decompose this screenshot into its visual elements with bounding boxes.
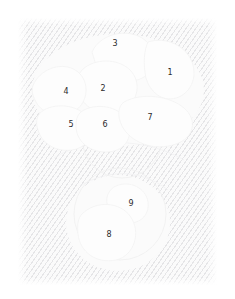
segment-label-7: 7 — [147, 114, 152, 122]
segment-label-8: 8 — [106, 231, 111, 239]
figure-canvas: 1 2 3 4 5 6 7 8 9 — [0, 0, 235, 299]
segment-label-1: 1 — [167, 69, 172, 77]
segment-label-9: 9 — [128, 200, 133, 208]
segment-label-5: 5 — [68, 121, 73, 129]
plot-area: 1 2 3 4 5 6 7 8 9 — [18, 18, 217, 285]
segments-layer — [18, 18, 217, 285]
segment-label-4: 4 — [63, 88, 68, 96]
segment-label-6: 6 — [102, 121, 107, 129]
segment-label-3: 3 — [112, 40, 117, 48]
segment-label-2: 2 — [100, 85, 105, 93]
